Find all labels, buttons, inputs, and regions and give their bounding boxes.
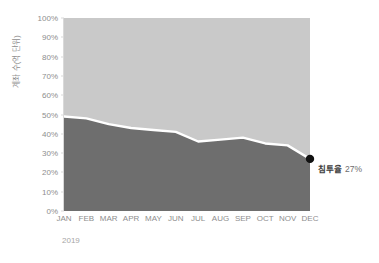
x-axis-tick: AUG: [212, 214, 229, 223]
x-axis-tick: DEC: [302, 214, 319, 223]
y-axis-tick: 90%: [18, 33, 58, 42]
y-axis-tick: 100%: [18, 14, 58, 23]
penetration-area-chart: 계좌 수(억 단위) 0%10%20%30%40%50%60%70%80%90%…: [0, 0, 379, 263]
y-axis-tick-mark: [61, 133, 64, 134]
y-axis-tick: 70%: [18, 71, 58, 80]
y-axis-tick: 50%: [18, 110, 58, 119]
plot-area: [64, 18, 310, 211]
annotation-value: 27%: [345, 164, 362, 174]
y-axis-tick-mark: [61, 18, 64, 19]
x-axis-tick: JAN: [56, 214, 71, 223]
x-axis-tick: MAY: [145, 214, 162, 223]
y-axis-tick-mark: [61, 95, 64, 96]
x-axis-tick: SEP: [235, 214, 251, 223]
y-axis-tick: 20%: [18, 168, 58, 177]
x-axis-tick: APR: [123, 214, 139, 223]
y-axis-tick: 30%: [18, 149, 58, 158]
area-series-svg: [64, 18, 310, 211]
annotation-label: 침투율: [318, 162, 342, 174]
y-axis-tick: 60%: [18, 91, 58, 100]
x-axis-tick: FEB: [79, 214, 95, 223]
endpoint-annotation: 침투율 27%: [318, 162, 362, 174]
x-axis-tick: JUL: [191, 214, 205, 223]
x-axis-year-label: 2019: [62, 236, 80, 245]
x-axis-tick: OCT: [257, 214, 274, 223]
y-axis-tick-mark: [61, 37, 64, 38]
y-axis-tick-mark: [61, 211, 64, 212]
y-axis-tick-mark: [61, 114, 64, 115]
y-axis-tick: 10%: [18, 187, 58, 196]
y-axis-tick-mark: [61, 153, 64, 154]
y-axis-tick-mark: [61, 172, 64, 173]
x-axis-tick-labels: JANFEBMARAPRMAYJUNJULAUGSEPOCTNOVDEC: [64, 214, 310, 228]
x-axis-tick: JUN: [168, 214, 184, 223]
y-axis-tick-mark: [61, 56, 64, 57]
y-axis-tick-mark: [61, 75, 64, 76]
y-axis-tick-labels: 0%10%20%30%40%50%60%70%80%90%100%: [18, 18, 58, 211]
x-axis-tick: MAR: [100, 214, 118, 223]
x-axis-tick: NOV: [279, 214, 296, 223]
y-axis-tick: 0%: [18, 207, 58, 216]
y-axis-tick-mark: [61, 191, 64, 192]
y-axis-tick: 80%: [18, 52, 58, 61]
y-axis-tick: 40%: [18, 129, 58, 138]
